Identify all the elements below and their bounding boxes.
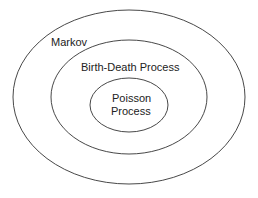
markov-label: Markov [51,36,87,49]
nested-set-diagram: Markov Birth-Death Process Poisson Proce… [0,0,258,198]
poisson-label-line2: Process [111,105,151,118]
birth-death-label: Birth-Death Process [81,61,179,74]
poisson-label-line1: Poisson [112,92,151,105]
